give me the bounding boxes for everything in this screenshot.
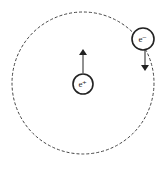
- electron-label: e⁻: [139, 34, 148, 44]
- positron: e⁺: [73, 52, 93, 94]
- electron: e⁻: [132, 28, 154, 68]
- orbit-diagram: e⁺ e⁻: [0, 0, 162, 174]
- positron-label: e⁺: [79, 79, 88, 89]
